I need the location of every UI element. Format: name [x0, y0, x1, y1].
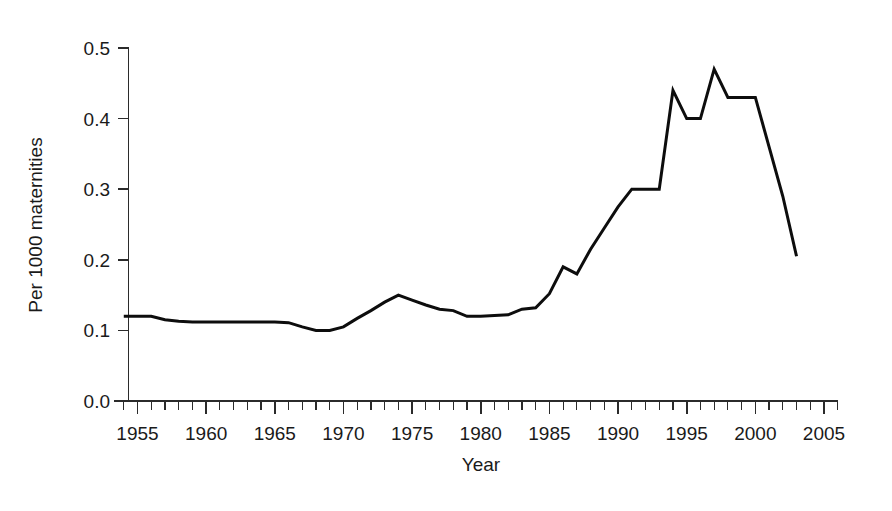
x-tick-label: 2000: [734, 423, 776, 444]
y-tick-label: 0.0: [84, 391, 110, 412]
x-tick-label: 1960: [185, 423, 227, 444]
x-tick-label: 1990: [597, 423, 639, 444]
x-axis: 1955196019651970197519801985199019952000…: [114, 401, 845, 444]
data-line-rate: [124, 69, 797, 330]
x-tick-label: 2005: [803, 423, 845, 444]
x-tick-label: 1970: [322, 423, 364, 444]
x-axis-tick-labels: 1955196019651970197519801985199019952000…: [116, 423, 845, 444]
x-axis-title: Year: [462, 454, 501, 475]
x-tick-label: 1985: [528, 423, 570, 444]
x-tick-label: 1975: [391, 423, 433, 444]
y-axis-ticks: [118, 48, 129, 401]
x-tick-label: 1955: [116, 423, 158, 444]
y-axis: 0.00.10.20.30.40.5: [84, 38, 129, 412]
y-tick-label: 0.5: [84, 38, 110, 59]
x-tick-label: 1995: [666, 423, 708, 444]
line-chart: 0.00.10.20.30.40.5 195519601965197019751…: [0, 0, 892, 511]
x-axis-major-ticks: [138, 401, 825, 414]
y-tick-label: 0.3: [84, 179, 110, 200]
chart-figure: 0.00.10.20.30.40.5 195519601965197019751…: [0, 0, 892, 511]
x-tick-label: 1980: [460, 423, 502, 444]
y-axis-tick-labels: 0.00.10.20.30.40.5: [84, 38, 111, 412]
x-tick-label: 1965: [254, 423, 296, 444]
y-tick-label: 0.2: [84, 250, 110, 271]
y-tick-label: 0.4: [84, 109, 111, 130]
y-axis-title: Per 1000 maternities: [25, 137, 46, 312]
y-tick-label: 0.1: [84, 320, 110, 341]
data-series-group: [124, 69, 797, 330]
